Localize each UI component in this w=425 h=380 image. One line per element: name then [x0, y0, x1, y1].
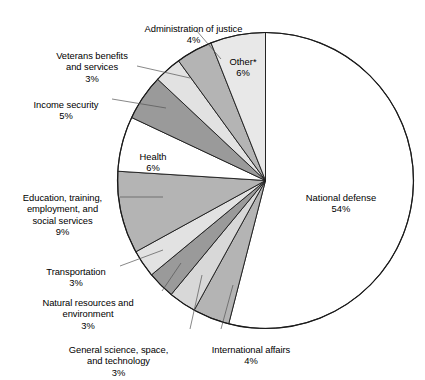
- slice-label-health-name: Health: [139, 151, 166, 162]
- slice-label-general-science: General science, space, and technology 3…: [47, 332, 190, 380]
- slice-label-income-security-pct: 5%: [22, 110, 110, 122]
- slice-label-general-science-pct: 3%: [47, 367, 190, 379]
- slice-label-general-science-name: General science, space, and technology: [69, 344, 168, 367]
- slice-label-other-pct: 6%: [236, 67, 250, 78]
- slice-label-veterans-name: Veterans benefits and services: [56, 50, 128, 73]
- slice-label-national-defense: National defense 54%: [286, 180, 396, 215]
- slice-label-transportation-name: Transportation: [46, 266, 105, 277]
- slice-label-income-security: Income security 5%: [22, 87, 110, 133]
- slice-label-veterans-pct: 3%: [48, 73, 136, 85]
- slice-label-international-affairs-name: International affairs: [212, 344, 291, 355]
- pie-chart-figure: Other* 6% National defense 54% Health 6%…: [0, 0, 425, 380]
- slice-label-health: Health 6%: [123, 139, 183, 174]
- slice-label-natural-resources-name: Natural resources and environment: [42, 297, 133, 320]
- slice-label-administration-of-justice-name: Administration of justice: [145, 23, 243, 34]
- slice-label-income-security-name: Income security: [34, 99, 99, 110]
- slice-label-education-name: Education, training, employment, and soc…: [23, 192, 102, 226]
- slice-label-education-pct: 9%: [6, 226, 119, 238]
- slice-label-education: Education, training, employment, and soc…: [6, 180, 119, 250]
- slice-label-international-affairs-pct: 4%: [196, 355, 306, 367]
- slice-label-health-pct: 6%: [146, 162, 160, 173]
- slice-label-international-affairs: International affairs 4%: [196, 332, 306, 378]
- slice-label-national-defense-name: National defense: [306, 192, 376, 203]
- slice-label-natural-resources-pct: 3%: [17, 320, 159, 332]
- slice-label-national-defense-pct: 54%: [332, 203, 351, 214]
